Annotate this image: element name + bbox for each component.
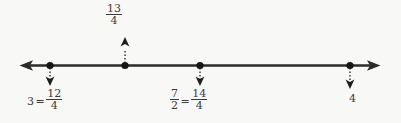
equals-sign: = [34, 96, 46, 107]
fraction-12-4: 12 4 [46, 88, 62, 112]
fraction-denominator: 4 [106, 15, 122, 26]
pointer-arrow-down-3 [46, 68, 55, 86]
pointer-arrow-down-7-2 [196, 68, 205, 86]
fraction-denominator: 2 [170, 100, 179, 111]
fraction-13-4: 13 4 [106, 3, 122, 27]
pointer-arrowhead-3 [46, 77, 55, 87]
whole-number-4: 4 [349, 93, 356, 104]
pointer-arrow-up-13-4 [121, 37, 130, 63]
label-7-2-equals-14-4: 7 2 = 14 4 [170, 88, 207, 112]
fraction-14-4: 14 4 [191, 88, 207, 112]
fraction-denominator: 4 [46, 100, 62, 111]
label-3-equals-12-4: 3= 12 4 [27, 88, 62, 112]
pointer-arrow-down-4 [346, 68, 355, 89]
whole-number-3: 3 [27, 96, 34, 107]
fraction-7-2: 7 2 [170, 88, 179, 112]
pointer-arrowhead-4 [346, 80, 355, 90]
fraction-denominator: 4 [191, 100, 207, 111]
label-13-4: 13 4 [106, 3, 122, 27]
label-4: 4 [349, 93, 356, 104]
pointer-arrowhead-13-4 [121, 37, 130, 47]
equals-sign: = [179, 96, 191, 107]
pointer-arrowhead-7-2 [196, 77, 205, 87]
